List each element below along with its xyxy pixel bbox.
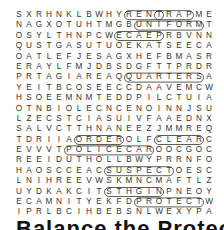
grid-letter[interactable]: L <box>34 124 44 134</box>
grid-letter[interactable]: C <box>124 145 134 155</box>
grid-letter[interactable]: G <box>54 41 64 51</box>
grid-letter[interactable]: O <box>94 155 104 165</box>
grid-letter[interactable]: F <box>164 20 174 30</box>
grid-letter[interactable]: R <box>114 135 124 145</box>
grid-letter[interactable]: S <box>194 52 204 62</box>
grid-letter[interactable]: Y <box>114 10 124 20</box>
grid-letter[interactable]: R <box>184 124 194 134</box>
grid-letter[interactable]: N <box>104 104 114 114</box>
grid-letter[interactable]: C <box>74 187 84 197</box>
grid-letter[interactable]: C <box>204 145 214 155</box>
grid-letter[interactable]: U <box>84 41 94 51</box>
grid-letter[interactable]: E <box>184 187 194 197</box>
grid-letter[interactable]: A <box>104 72 114 82</box>
grid-letter[interactable]: E <box>104 93 114 103</box>
grid-letter[interactable]: D <box>194 62 204 72</box>
grid-letter[interactable]: O <box>34 93 44 103</box>
grid-letter[interactable]: C <box>204 166 214 176</box>
grid-letter[interactable]: A <box>24 52 34 62</box>
grid-letter[interactable]: P <box>84 31 94 41</box>
grid-letter[interactable]: E <box>144 31 154 41</box>
grid-letter[interactable]: R <box>184 72 194 82</box>
grid-letter[interactable]: A <box>164 114 174 124</box>
grid-letter[interactable]: T <box>64 20 74 30</box>
grid-letter[interactable]: K <box>44 187 54 197</box>
grid-letter[interactable]: Q <box>114 72 124 82</box>
grid-letter[interactable]: M <box>64 93 74 103</box>
grid-letter[interactable]: E <box>54 52 64 62</box>
grid-letter[interactable]: O <box>14 104 24 114</box>
grid-letter[interactable]: M <box>164 124 174 134</box>
grid-letter[interactable]: F <box>154 52 164 62</box>
grid-letter[interactable]: E <box>54 93 64 103</box>
grid-letter[interactable]: L <box>74 104 84 114</box>
grid-letter[interactable]: C <box>24 197 34 207</box>
grid-letter[interactable]: T <box>54 31 64 41</box>
grid-letter[interactable]: S <box>44 166 54 176</box>
grid-letter[interactable]: R <box>204 62 214 72</box>
grid-letter[interactable]: H <box>44 10 54 20</box>
grid-letter[interactable]: M <box>154 176 164 186</box>
grid-letter[interactable]: V <box>44 124 54 134</box>
grid-letter[interactable]: C <box>94 166 104 176</box>
grid-letter[interactable]: O <box>74 145 84 155</box>
grid-letter[interactable]: H <box>14 93 24 103</box>
grid-letter[interactable]: I <box>44 155 54 165</box>
grid-letter[interactable]: S <box>84 83 94 93</box>
grid-letter[interactable]: A <box>94 114 104 124</box>
grid-letter[interactable]: N <box>144 10 154 20</box>
grid-letter[interactable]: R <box>124 10 134 20</box>
grid-letter[interactable]: C <box>154 166 164 176</box>
grid-letter[interactable]: R <box>34 135 44 145</box>
grid-letter[interactable]: M <box>194 10 204 20</box>
grid-letter[interactable]: B <box>124 20 134 30</box>
grid-letter[interactable]: E <box>24 155 34 165</box>
grid-letter[interactable]: K <box>64 187 74 197</box>
grid-letter[interactable]: M <box>194 20 204 30</box>
grid-letter[interactable]: U <box>14 187 24 197</box>
grid-letter[interactable]: A <box>144 41 154 51</box>
grid-letter[interactable]: C <box>64 83 74 93</box>
grid-letter[interactable]: H <box>84 20 94 30</box>
grid-letter[interactable]: E <box>74 176 84 186</box>
grid-letter[interactable]: M <box>44 197 54 207</box>
grid-letter[interactable]: O <box>174 166 184 176</box>
grid-letter[interactable]: D <box>124 62 134 72</box>
grid-letter[interactable]: P <box>14 72 24 82</box>
grid-letter[interactable]: N <box>114 124 124 134</box>
grid-letter[interactable]: V <box>44 145 54 155</box>
grid-letter[interactable]: E <box>144 166 154 176</box>
grid-letter[interactable]: I <box>154 20 164 30</box>
grid-letter[interactable]: R <box>194 135 204 145</box>
grid-letter[interactable]: Y <box>24 187 34 197</box>
grid-letter[interactable]: S <box>74 41 84 51</box>
grid-letter[interactable]: V <box>84 176 94 186</box>
grid-letter[interactable]: A <box>24 166 34 176</box>
grid-letter[interactable]: C <box>74 114 84 124</box>
grid-letter[interactable]: I <box>54 135 64 145</box>
grid-letter[interactable]: U <box>64 155 74 165</box>
grid-letter[interactable]: W <box>94 176 104 186</box>
grid-letter[interactable]: C <box>154 135 164 145</box>
grid-letter[interactable]: E <box>114 145 124 155</box>
grid-letter[interactable]: S <box>194 166 204 176</box>
grid-letter[interactable]: T <box>74 197 84 207</box>
grid-letter[interactable]: G <box>184 145 194 155</box>
grid-letter[interactable]: F <box>144 114 154 124</box>
grid-letter[interactable]: W <box>104 31 114 41</box>
grid-letter[interactable]: I <box>34 176 44 186</box>
grid-letter[interactable]: T <box>44 41 54 51</box>
grid-letter[interactable]: E <box>124 124 134 134</box>
grid-letter[interactable]: O <box>114 41 124 51</box>
grid-letter[interactable]: C <box>174 145 184 155</box>
grid-letter[interactable]: L <box>134 135 144 145</box>
grid-letter[interactable]: A <box>24 20 34 30</box>
grid-letter[interactable]: W <box>204 83 214 93</box>
grid-letter[interactable]: T <box>54 145 64 155</box>
grid-letter[interactable]: I <box>84 114 94 124</box>
grid-letter[interactable]: N <box>94 124 104 134</box>
grid-letter[interactable]: L <box>54 62 64 72</box>
grid-letter[interactable]: V <box>184 31 194 41</box>
grid-letter[interactable]: N <box>24 176 34 186</box>
grid-letter[interactable]: E <box>14 62 24 72</box>
